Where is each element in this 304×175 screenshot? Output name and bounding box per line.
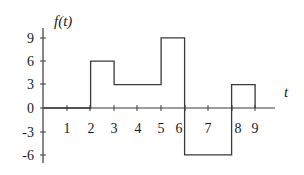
x-tick-label: 7 [205,121,212,136]
y-tick-label: 0 [27,101,34,116]
y-tick-label: 3 [27,77,34,92]
x-tick-label: 8 [235,121,242,136]
y-tick-label: 9 [27,31,34,46]
x-tick-label: 5 [158,121,165,136]
x-tick-label: 9 [252,121,259,136]
y-axis-label: f(t) [54,13,72,30]
y-tick-label: -6 [22,148,34,163]
x-tick-labels: 1 2 3 4 5 6 7 8 9 [64,121,259,136]
y-tick-labels: 9 6 3 0 -3 -6 [22,31,34,163]
y-tick-label: -3 [22,125,34,140]
x-axis-label: t [284,84,289,100]
y-tick-label: 6 [27,54,34,69]
step-function-chart: 9 6 3 0 -3 -6 1 2 3 4 5 6 7 8 9 f(t) t [0,0,304,175]
x-tick-label: 3 [111,121,118,136]
x-tick-label: 1 [64,121,71,136]
x-tick-label: 4 [135,121,142,136]
x-tick-label: 2 [88,121,95,136]
signal-trace [44,38,256,155]
x-tick-label: 6 [176,121,183,136]
